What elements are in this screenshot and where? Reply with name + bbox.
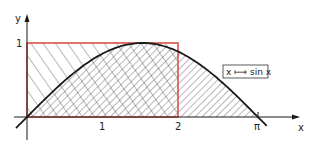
x-tick-1-label: 1: [99, 121, 105, 132]
x-tick-2-label: 2: [175, 121, 181, 132]
x-axis-label: x: [298, 122, 304, 133]
function-label: x ⟼ sin x: [226, 67, 272, 77]
x-axis-arrow-icon: [292, 115, 300, 120]
sine-area-diagram: y x 1 1 2 π x ⟼ sin x: [0, 0, 314, 143]
y-axis-label: y: [15, 13, 21, 24]
y-tick-1-label: 1: [16, 38, 22, 49]
y-axis-arrow-icon: [25, 14, 30, 22]
x-tick-pi-label: π: [254, 121, 260, 132]
